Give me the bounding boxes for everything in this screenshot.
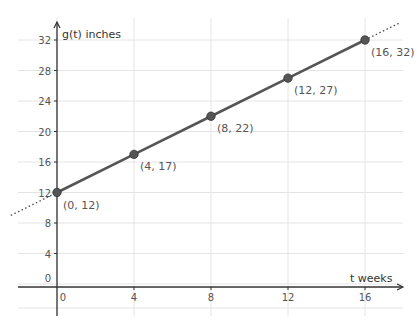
- data-point: [361, 36, 369, 44]
- y-tick-label: 0: [45, 273, 51, 284]
- grid: [18, 18, 403, 316]
- x-tick-label: 12: [282, 292, 295, 303]
- x-tick-label: 4: [131, 292, 137, 303]
- data-point-label: (8, 22): [217, 122, 254, 135]
- x-tick-label: 0: [60, 292, 66, 303]
- y-axis-label: g(t) inches: [62, 28, 121, 41]
- y-tick-label: 4: [45, 249, 51, 260]
- data-point: [130, 150, 138, 158]
- data-point: [53, 188, 61, 196]
- data-point-label: (16, 32): [371, 46, 415, 59]
- data-series: (0, 12)(4, 17)(8, 22)(12, 27)(16, 32): [11, 23, 415, 216]
- line-extension-right: [365, 23, 400, 40]
- y-tick-label: 20: [38, 127, 51, 138]
- y-tick-label: 8: [45, 218, 51, 229]
- data-point: [207, 112, 215, 120]
- data-point: [284, 74, 292, 82]
- y-tick-label: 28: [38, 66, 51, 77]
- y-tick-label: 24: [38, 96, 51, 107]
- y-tick-label: 16: [38, 157, 51, 168]
- tick-labels: 0481216202428320481216: [38, 35, 371, 303]
- line-chart: 0481216202428320481216 (0, 12)(4, 17)(8,…: [0, 0, 417, 325]
- data-point-label: (12, 27): [294, 84, 338, 97]
- data-point-label: (4, 17): [140, 160, 177, 173]
- x-tick-label: 16: [359, 292, 372, 303]
- x-axis-label: t weeks: [350, 272, 393, 285]
- y-tick-label: 12: [38, 188, 51, 199]
- data-point-label: (0, 12): [63, 199, 100, 212]
- y-tick-label: 32: [38, 35, 51, 46]
- x-tick-label: 8: [208, 292, 214, 303]
